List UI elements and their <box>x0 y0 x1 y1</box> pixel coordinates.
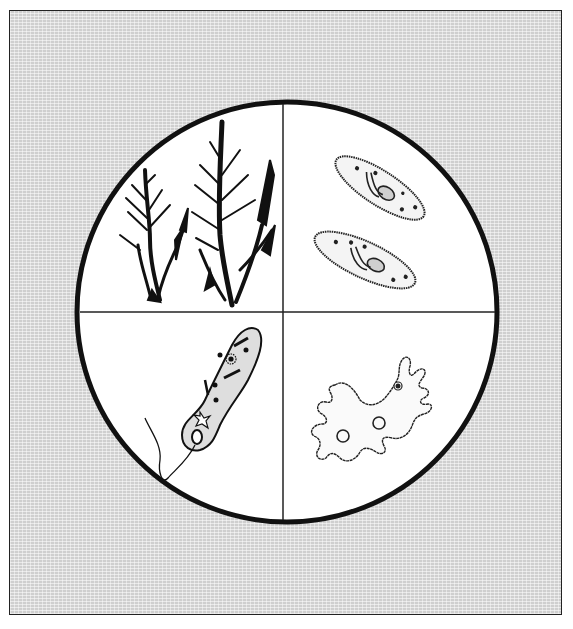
microorganism-diagram <box>0 0 573 629</box>
